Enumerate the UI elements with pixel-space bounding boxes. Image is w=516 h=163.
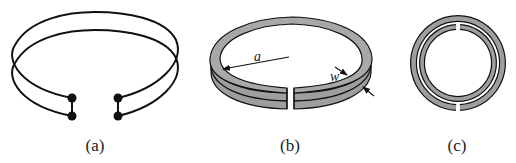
caption-a: (a) [86,136,105,155]
panel-c-srr [413,19,502,108]
terminal-dots [68,94,123,121]
panel-b-split-ring [210,17,372,109]
radius-label-a: a [254,49,261,64]
caption-b: (b) [280,136,300,155]
caption-c: (c) [448,136,467,155]
split-ring-figure: (a) a w (b) (c) [0,0,516,163]
width-label-w: w [330,69,340,84]
panel-a-loop [12,12,178,116]
